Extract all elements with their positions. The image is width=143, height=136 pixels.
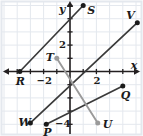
segment-tu (57, 58, 98, 123)
segment-wv (30, 23, 137, 123)
point-label-p: P (43, 127, 51, 136)
point-q (120, 84, 125, 89)
point-u (95, 120, 100, 125)
point-label-s: S (87, 5, 95, 16)
point-label-w: W (18, 117, 30, 128)
point-label-r: R (16, 76, 25, 87)
point-t (54, 56, 59, 61)
x-axis-label: x (131, 60, 138, 71)
y-tick-label-2: 2 (59, 40, 66, 50)
point-label-t: T (46, 52, 54, 63)
x-tick-label-2: 2 (93, 76, 100, 86)
coordinate-plane-figure: S V T R Q U W P x y −2 2 2 −4 (0, 0, 143, 136)
line-segments (20, 6, 137, 125)
y-axis-label: y (59, 4, 65, 15)
point-v (135, 20, 140, 25)
point-s (81, 3, 86, 8)
x-tick-label-neg2: −2 (37, 76, 52, 86)
point-label-v: V (126, 10, 135, 21)
y-tick-label-neg4: −4 (55, 119, 70, 129)
point-label-u: U (103, 119, 113, 130)
point-label-q: Q (121, 90, 131, 101)
point-r (17, 69, 22, 74)
